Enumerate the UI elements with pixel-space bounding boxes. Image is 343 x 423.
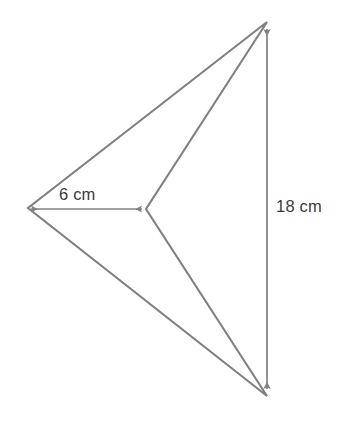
dimension-label-height: 18 cm — [276, 198, 322, 215]
dimension-label-base: 6 cm — [59, 186, 96, 203]
geometry-figure: 6 cm 18 cm — [0, 0, 343, 423]
